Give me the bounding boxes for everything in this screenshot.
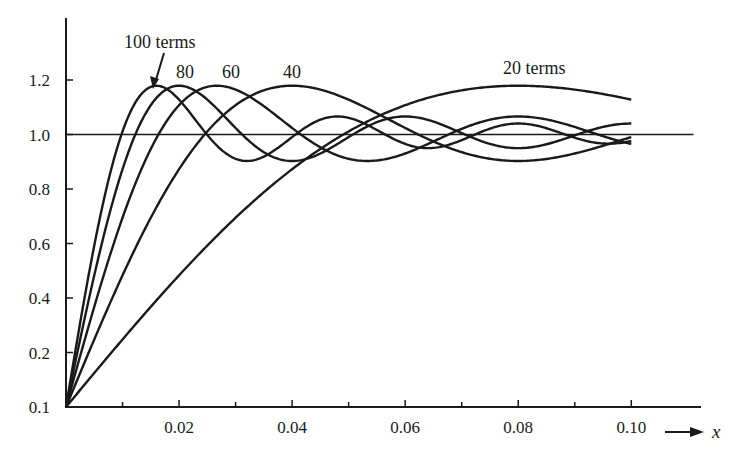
x-tick-label: 0.08 (503, 418, 533, 437)
x-axis-label: x (711, 421, 721, 442)
tick-labels: 0.020.040.060.080.100.10.20.40.60.81.01.… (29, 71, 646, 437)
label-40: 40 (283, 62, 301, 82)
x-tick-label: 0.10 (616, 418, 646, 437)
label-20-terms: 20 terms (503, 58, 566, 78)
plot-area (66, 86, 693, 407)
x-tick-label: 0.04 (277, 418, 307, 437)
y-tick-label: 1.2 (29, 71, 50, 90)
label-100-terms: 100 terms (124, 32, 196, 52)
x-tick-label: 0.02 (164, 418, 194, 437)
fourier-partial-sums-chart: 0.020.040.060.080.100.10.20.40.60.81.01.… (0, 0, 738, 461)
label-80: 80 (176, 62, 194, 82)
y-tick-label: 0.4 (29, 289, 51, 308)
y-tick-label: 0.2 (29, 344, 50, 363)
y-tick-label: 0.8 (29, 180, 50, 199)
y-tick-label: 1.0 (29, 126, 50, 145)
x-arrow-head (690, 427, 704, 437)
label-60: 60 (222, 62, 240, 82)
y-tick-label: 0.6 (29, 235, 50, 254)
x-tick-label: 0.06 (390, 418, 420, 437)
y-tick-label: 0.1 (29, 398, 50, 417)
axes (65, 18, 701, 408)
